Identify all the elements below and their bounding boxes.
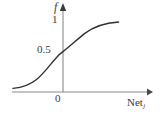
y-axis-arrowhead [60,3,66,11]
y-axis-tick-label-1: 1 [52,14,58,25]
x-axis-arrowhead [147,89,153,96]
y-axis-label: f [54,1,57,13]
origin-label: 0 [55,93,61,104]
x-axis-label-subscript: j [143,102,145,110]
sigmoid-function-figure: f 1 0.5 0 Netj [0,0,161,117]
x-axis-label: Netj [127,97,145,110]
y-axis-tick-label-0.5: 0.5 [37,44,51,55]
sigmoid-curve [13,22,119,88]
x-axis-label-text: Net [127,96,143,108]
